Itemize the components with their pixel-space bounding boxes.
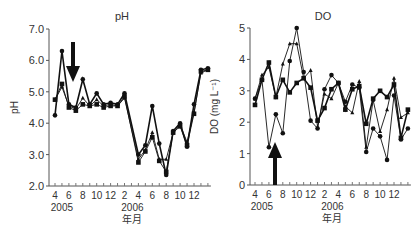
x-tick-label: 12: [305, 189, 317, 200]
marker-circle: [281, 131, 286, 136]
marker-circle: [294, 26, 299, 31]
marker-square: [136, 160, 141, 165]
marker-square: [294, 81, 299, 86]
chart-title: pH: [115, 10, 129, 22]
marker-square: [108, 104, 113, 109]
x-tick-label: 6: [266, 189, 272, 200]
marker-square: [74, 108, 79, 113]
chart-title: DO: [315, 10, 332, 22]
marker-circle: [60, 49, 65, 54]
arrow-down-icon: [71, 42, 75, 68]
marker-circle: [392, 93, 397, 98]
marker-circle: [350, 82, 355, 87]
marker-circle: [378, 134, 383, 139]
x-tick-label: 10: [175, 190, 187, 201]
marker-circle: [53, 113, 58, 118]
chart-canvas: pH2.03.04.05.06.07.046810122468101220052…: [0, 0, 415, 234]
marker-square: [101, 105, 106, 110]
marker-square: [253, 103, 258, 108]
x-tick-label: 2: [322, 189, 328, 200]
marker-square: [206, 68, 211, 73]
marker-square: [267, 60, 272, 65]
y-tick-label: 6.0: [29, 54, 44, 66]
marker-square: [60, 82, 65, 87]
marker-square: [53, 97, 58, 102]
x-tick-label: 4: [336, 189, 342, 200]
x-tick-label: 10: [291, 189, 303, 200]
marker-triangle: [378, 129, 382, 133]
year-label: 2006: [321, 201, 344, 212]
marker-triangle: [281, 62, 285, 66]
x-tick-label: 8: [363, 189, 369, 200]
x-tick-label: 6: [350, 189, 356, 200]
y-tick-label: 1: [239, 148, 245, 160]
marker-circle: [329, 73, 334, 78]
marker-square: [94, 102, 99, 107]
year-label: 2005: [51, 202, 74, 213]
marker-circle: [385, 158, 390, 163]
marker-triangle: [399, 115, 403, 119]
marker-square: [287, 90, 292, 95]
y-tick-label: 4.0: [29, 117, 44, 129]
x-tick-label: 6: [66, 190, 72, 201]
x-tick-label: 10: [91, 190, 103, 201]
arrow-down-icon: [66, 66, 80, 82]
marker-circle: [406, 126, 411, 131]
x-tick-label: 2: [122, 190, 128, 201]
marker-triangle: [385, 107, 389, 111]
x-tick-label: 10: [375, 189, 387, 200]
y-tick-label: 5: [239, 22, 245, 34]
marker-square: [67, 105, 72, 110]
x-tick-label: 12: [105, 190, 117, 201]
marker-triangle: [150, 130, 154, 134]
x-tick-label: 8: [80, 190, 86, 201]
marker-circle: [364, 150, 369, 155]
y-tick-label: 0: [239, 179, 245, 191]
y-tick-label: 2: [239, 116, 245, 128]
year-label: 2006: [121, 202, 144, 213]
marker-circle: [274, 112, 279, 117]
marker-square: [164, 170, 169, 175]
marker-square: [122, 94, 127, 99]
marker-square: [329, 87, 334, 92]
marker-circle: [308, 118, 313, 123]
year-label: 2005: [251, 201, 274, 212]
marker-circle: [81, 77, 86, 82]
x-tick-label: 4: [252, 189, 258, 200]
marker-square: [87, 104, 92, 109]
marker-square: [385, 95, 390, 100]
chart-do: DO01234546810122468101220052006年月DO (mg …: [209, 10, 411, 224]
marker-square: [143, 149, 148, 154]
x-tick-label: 6: [150, 190, 156, 201]
marker-square: [171, 130, 176, 135]
marker-triangle: [95, 97, 99, 101]
marker-circle: [287, 59, 292, 64]
x-tick-label: 8: [163, 190, 169, 201]
marker-triangle: [392, 76, 396, 80]
marker-circle: [94, 91, 99, 96]
arrow-up-icon: [268, 142, 282, 158]
marker-triangle: [329, 96, 333, 100]
marker-circle: [267, 145, 272, 150]
marker-square: [322, 106, 327, 111]
y-tick-label: 3: [239, 85, 245, 97]
x-axis-label: 年月: [122, 213, 142, 225]
y-tick-label: 2.0: [29, 180, 44, 192]
y-tick-label: 7.0: [29, 23, 44, 35]
marker-square: [81, 102, 86, 107]
marker-square: [185, 143, 190, 148]
marker-triangle: [81, 96, 85, 100]
y-tick-label: 3.0: [29, 149, 44, 161]
marker-circle: [322, 87, 327, 92]
y-tick-label: 4: [239, 53, 245, 65]
marker-circle: [150, 104, 155, 109]
x-tick-label: 4: [136, 190, 142, 201]
chart-ph: pH2.03.04.05.06.07.046810122468101220052…: [9, 10, 211, 225]
marker-circle: [399, 137, 404, 142]
marker-square: [281, 78, 286, 83]
marker-circle: [371, 126, 376, 131]
x-tick-label: 8: [280, 189, 286, 200]
marker-square: [378, 89, 383, 94]
marker-square: [115, 104, 120, 109]
marker-triangle: [323, 92, 327, 96]
